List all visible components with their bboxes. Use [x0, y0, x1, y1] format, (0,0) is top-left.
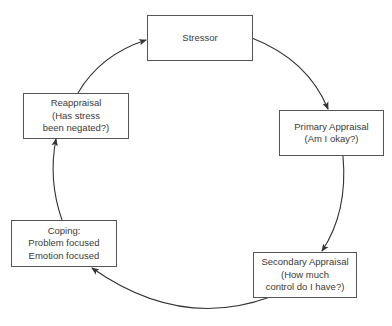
node-stressor-label: Stressor	[182, 32, 217, 45]
node-coping: Coping: Problem focused Emotion focused	[11, 220, 117, 267]
node-primary-appraisal-question: (Am I okay?)	[305, 133, 359, 146]
node-secondary-appraisal-title: Secondary Appraisal	[261, 256, 348, 269]
arrow-primary-to-secondary	[322, 156, 344, 251]
arrow-reappraisal-to-stressor	[78, 40, 146, 93]
arrow-stressor-to-primary	[252, 38, 328, 109]
node-coping-title: Coping:	[48, 225, 81, 238]
node-reappraisal-title: Reappraisal	[51, 97, 102, 110]
node-secondary-appraisal-question-2: control do I have?)	[266, 281, 345, 294]
node-coping-problem: Problem focused	[28, 237, 99, 250]
node-secondary-appraisal-question-1: (How much	[281, 269, 329, 282]
node-stressor: Stressor	[147, 15, 253, 61]
node-secondary-appraisal: Secondary Appraisal (How much control do…	[253, 252, 357, 298]
node-primary-appraisal-title: Primary Appraisal	[294, 121, 368, 134]
node-primary-appraisal: Primary Appraisal (Am I okay?)	[279, 110, 384, 156]
node-reappraisal: Reappraisal (Has stress been negated?)	[23, 93, 129, 139]
node-reappraisal-question-2: been negated?)	[43, 122, 110, 135]
arrow-secondary-to-coping	[92, 268, 270, 308]
arrow-coping-to-reappraisal	[53, 139, 62, 220]
node-reappraisal-question-1: (Has stress	[52, 110, 100, 123]
node-coping-emotion: Emotion focused	[29, 250, 100, 263]
